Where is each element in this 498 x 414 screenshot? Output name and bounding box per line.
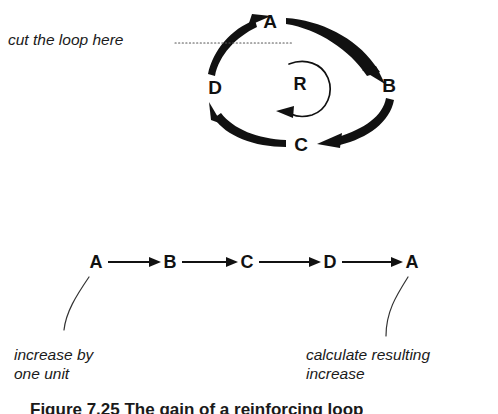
annotation-leader-right <box>386 277 408 336</box>
loop-arrowhead-c <box>317 133 342 148</box>
loop-edge-a-to-b <box>286 18 380 76</box>
loop-node-a: A <box>259 12 281 31</box>
loop-edge-d-to-a <box>208 20 257 76</box>
chain-node-c1: C <box>237 253 257 271</box>
loop-node-d: D <box>204 78 226 97</box>
chain-annotation-right: calculate resulting increase <box>306 345 430 383</box>
chain-annotation-left: increase by one unit <box>14 345 93 383</box>
figure-root: A B C D R cut the loop here A B C D A in… <box>0 0 498 414</box>
chain-node-a2: A <box>402 253 422 271</box>
loop-node-b: B <box>378 76 400 95</box>
loop-edge-c-to-d <box>214 113 286 147</box>
chain-node-a1: A <box>86 253 106 271</box>
annotation-leader-left <box>64 277 89 330</box>
reinforcing-loop-symbol: R <box>290 75 310 93</box>
chain-node-d1: D <box>320 253 340 271</box>
figure-caption: Figure 7.25 The gain of a reinforcing lo… <box>30 400 363 414</box>
loop-node-c: C <box>290 135 312 154</box>
loop-edge-b-to-c <box>338 98 394 145</box>
cut-loop-annotation: cut the loop here <box>8 30 123 49</box>
chain-node-b1: B <box>160 253 180 271</box>
